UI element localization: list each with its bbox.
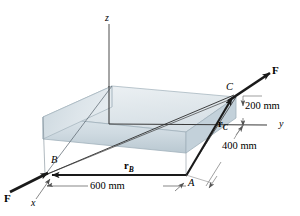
dimension-label-200: 200 mm <box>245 101 280 112</box>
vector-r-c-subscript: C <box>223 123 228 132</box>
force-vector-top <box>228 73 270 101</box>
point-label-c: C <box>226 82 233 93</box>
dimension-label-400: 400 mm <box>222 141 257 152</box>
slab-body <box>43 86 236 153</box>
vector-r-b-subscript: B <box>129 165 134 174</box>
axis-label-x: x <box>31 198 35 208</box>
axis-x <box>36 179 50 199</box>
axis-label-z: z <box>105 13 109 23</box>
vector-label-r-c: rC <box>218 119 228 132</box>
axis-label-y: y <box>279 119 283 129</box>
point-label-a: A <box>188 178 194 189</box>
force-label-top: F <box>272 65 279 76</box>
statics-figure: z y x A B C F F rB rC 600 mm 400 mm 200 … <box>0 0 300 216</box>
force-label-bottom: F <box>4 193 11 204</box>
dimension-label-600: 600 mm <box>90 181 125 192</box>
force-vector-bottom <box>10 173 48 192</box>
point-label-b: B <box>51 155 57 166</box>
vector-label-r-b: rB <box>124 161 134 174</box>
